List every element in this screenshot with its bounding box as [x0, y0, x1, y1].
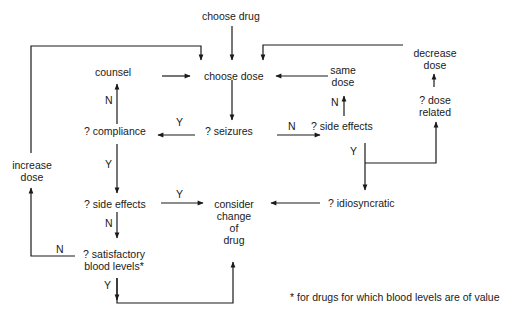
node-side-effects-right: ? side effects — [311, 120, 373, 132]
edge-label-seizures-compliance: Y — [176, 116, 183, 128]
node-satisfactory-line1: ? satisfactory — [80, 248, 148, 260]
node-same-dose-line2: dose — [328, 76, 358, 88]
node-consider-line4: drug — [209, 234, 259, 246]
node-satisfactory-blood-levels: ? satisfactory blood levels* — [80, 248, 148, 272]
node-consider-change: consider change of drug — [209, 198, 259, 246]
edge-label-compliance-yes: Y — [105, 158, 112, 170]
node-increase-dose-line2: dose — [10, 171, 54, 183]
footnote: * for drugs for which blood levels are o… — [290, 291, 500, 303]
node-decrease-dose: decrease dose — [409, 47, 461, 71]
node-same-dose-line1: same — [328, 64, 358, 76]
node-consider-line2: change — [209, 210, 259, 222]
node-idiosyncratic: ? idiosyncratic — [328, 197, 395, 209]
node-increase-dose: increase dose — [10, 159, 54, 183]
node-dose-related-line2: related — [413, 106, 457, 118]
edge-label-satisfactory-no: N — [56, 243, 64, 255]
edge-label-compliance-counsel: N — [105, 94, 113, 106]
edge-label-satisfactory-yes: Y — [104, 279, 111, 291]
node-choose-dose: choose dose — [204, 70, 264, 82]
node-consider-line3: of — [209, 222, 259, 234]
node-satisfactory-line2: blood levels* — [80, 260, 148, 272]
node-counsel: counsel — [95, 66, 131, 78]
node-side-effects-left: ? side effects — [84, 198, 146, 210]
node-decrease-dose-line1: decrease — [409, 47, 461, 59]
node-consider-line1: consider — [209, 198, 259, 210]
node-seizures: ? seizures — [205, 125, 253, 137]
edge-label-side-effects-consider: Y — [176, 188, 183, 200]
node-choose-drug: choose drug — [202, 10, 260, 22]
node-dose-related-line1: ? dose — [413, 94, 457, 106]
edge-label-seizures-side-effects: N — [288, 120, 296, 132]
edge-label-side-effects-right-yes: Y — [350, 145, 357, 157]
node-increase-dose-line1: increase — [10, 159, 54, 171]
node-same-dose: same dose — [328, 64, 358, 88]
node-decrease-dose-line2: dose — [409, 59, 461, 71]
edge-label-side-effects-left-no: N — [105, 217, 113, 229]
node-compliance: ? compliance — [84, 125, 146, 137]
edge-label-side-effects-same-dose: N — [331, 96, 339, 108]
node-dose-related: ? dose related — [413, 94, 457, 118]
